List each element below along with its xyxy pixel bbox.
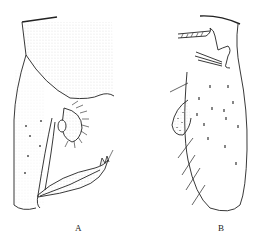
panel-b-label: B [218, 223, 224, 233]
figure: A B [0, 0, 256, 237]
panel-a-drawing [0, 0, 256, 237]
panel-a [14, 17, 114, 209]
panel-b [170, 16, 247, 211]
panel-a-label: A [75, 223, 82, 233]
